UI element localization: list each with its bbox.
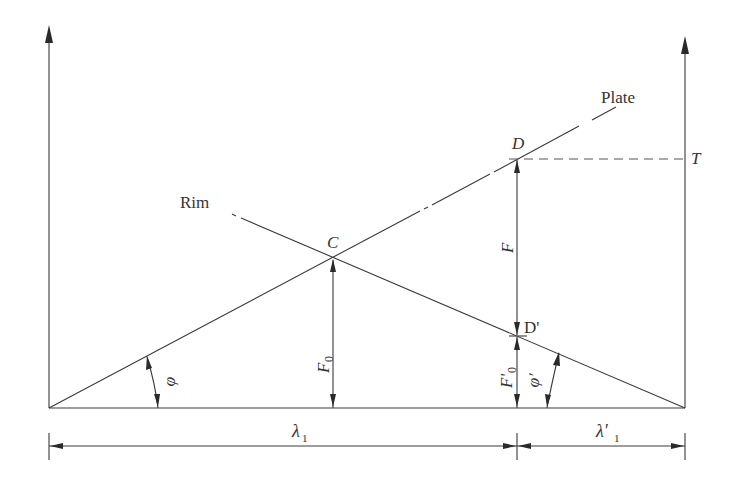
angle-phi-prime-label: φ'	[523, 372, 544, 389]
phi-angle-arrow	[146, 356, 160, 408]
rim-line	[232, 214, 685, 408]
f0-dimension	[330, 259, 336, 408]
svg-text:1: 1	[302, 432, 308, 444]
point-d-label: D	[511, 134, 525, 153]
svg-text:F': F'	[497, 374, 516, 389]
force-f-label: F	[498, 242, 517, 254]
force-f0-label: F 0	[314, 356, 336, 374]
point-c-label: C	[327, 233, 339, 252]
point-d-prime-label: D'	[524, 318, 539, 337]
lambda1-prime-label: λ' 1	[595, 421, 620, 444]
point-t-label: T	[691, 149, 702, 168]
right-axis	[681, 36, 689, 408]
rim-label: Rim	[180, 193, 209, 212]
left-axis	[45, 25, 53, 408]
svg-text:λ': λ'	[595, 421, 609, 441]
lambda1-label: λ 1	[291, 421, 308, 444]
force-f0-prime-label: F' 0	[497, 367, 519, 389]
bolted-joint-diagram: Plate Rim C D D' T F F 0 F' 0 φ φ' λ 1 λ…	[0, 0, 738, 483]
angle-phi-label: φ	[159, 375, 179, 388]
right-axis-arrow-icon	[681, 36, 689, 54]
svg-text:λ: λ	[291, 421, 300, 441]
left-axis-arrow-icon	[45, 25, 53, 43]
phi-prime-angle-arrow	[545, 352, 560, 408]
plate-label: Plate	[601, 88, 635, 107]
svg-text:1: 1	[614, 432, 620, 444]
svg-text:0: 0	[322, 356, 336, 362]
lambda-dimension-line	[49, 433, 685, 460]
svg-text:F: F	[314, 362, 333, 374]
svg-text:0: 0	[505, 367, 519, 373]
